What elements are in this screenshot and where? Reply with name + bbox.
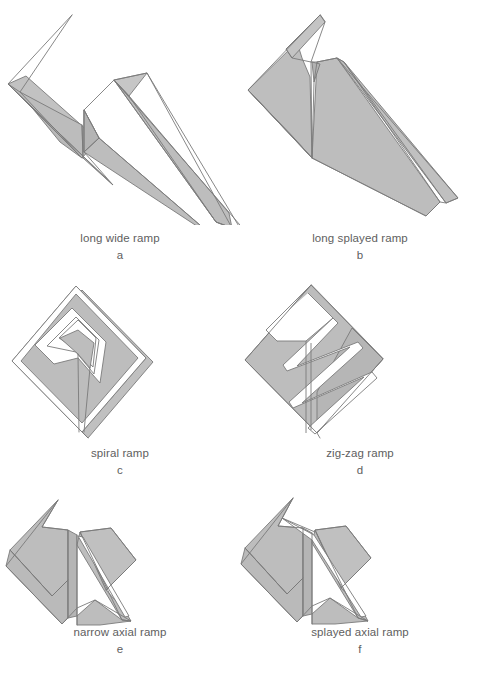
caption-name-f: splayed axial ramp	[240, 625, 480, 640]
panel-zig-zag-ramp	[240, 280, 480, 445]
splayed-center-facet	[303, 528, 312, 616]
narrow-axial-ramp-diagram	[0, 488, 240, 636]
caption-letter-e: e	[0, 642, 240, 657]
panel-narrow-axial-ramp	[0, 488, 240, 636]
caption-panel-c: spiral ramp c	[0, 446, 240, 478]
splayed-axial-ramp-diagram	[240, 488, 480, 636]
caption-name-a: long wide ramp	[0, 231, 240, 246]
caption-name-e: narrow axial ramp	[0, 625, 240, 640]
ramp-typology-figure: long wide ramp a	[0, 0, 480, 677]
caption-panel-a: long wide ramp a	[0, 231, 240, 263]
panel-spiral-ramp	[0, 280, 240, 445]
narrow-center-facet	[68, 530, 77, 618]
panel-long-splayed-ramp	[240, 0, 480, 225]
caption-panel-b: long splayed ramp b	[240, 231, 480, 263]
panel-long-wide-ramp	[0, 0, 240, 225]
long-wide-ramp-diagram	[0, 0, 240, 225]
caption-name-c: spiral ramp	[0, 446, 240, 461]
caption-letter-a: a	[0, 248, 240, 263]
zig-zag-ramp-diagram	[240, 280, 480, 445]
caption-letter-d: d	[240, 463, 480, 478]
panel-splayed-axial-ramp	[240, 488, 480, 636]
caption-letter-c: c	[0, 463, 240, 478]
caption-panel-e: narrow axial ramp e	[0, 625, 240, 657]
caption-name-b: long splayed ramp	[240, 231, 480, 246]
zigzag-tail	[317, 433, 320, 438]
ramp-shoulder-right-b	[286, 15, 325, 58]
long-splayed-ramp-diagram	[240, 0, 480, 225]
spiral-ramp-diagram	[0, 280, 240, 445]
caption-letter-f: f	[240, 642, 480, 657]
caption-panel-f: splayed axial ramp f	[240, 625, 480, 657]
caption-letter-b: b	[240, 248, 480, 263]
caption-name-d: zig-zag ramp	[240, 446, 480, 461]
ramp-wedge-central-b	[312, 58, 440, 216]
caption-panel-d: zig-zag ramp d	[240, 446, 480, 478]
